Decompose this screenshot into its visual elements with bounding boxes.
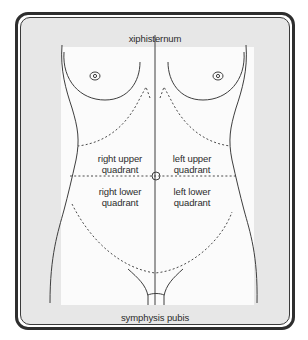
torso-outline-left (50, 45, 78, 303)
breast-left (64, 52, 140, 100)
luq-line2: quadrant (173, 164, 212, 175)
rlq-line1: right lower (99, 186, 142, 197)
pubic-line (148, 294, 164, 296)
nipple-right (213, 72, 223, 80)
label-right-upper-quadrant: right upper quadrant (98, 153, 142, 175)
label-xiphisternum: xiphisternum (129, 33, 182, 44)
rug-line1: right upper (98, 153, 142, 164)
nipple-left (90, 72, 100, 80)
thigh-line-left (128, 269, 148, 305)
rlq-line2: quadrant (99, 197, 142, 208)
label-left-upper-quadrant: left upper quadrant (173, 153, 212, 175)
label-symphysis-pubis: symphysis pubis (121, 312, 189, 323)
breast-right (168, 52, 244, 100)
llq-line1: left lower (173, 186, 210, 197)
costal-margin-left (78, 87, 150, 146)
costal-margin-right (160, 87, 230, 146)
thigh-line-right (164, 269, 183, 305)
label-left-lower-quadrant: left lower quadrant (173, 186, 210, 208)
torso-illustration (0, 0, 308, 340)
inguinal-curve (72, 204, 232, 273)
label-right-lower-quadrant: right lower quadrant (99, 186, 142, 208)
llq-line2: quadrant (173, 197, 210, 208)
rug-line2: quadrant (98, 164, 142, 175)
luq-line1: left upper (173, 153, 212, 164)
torso-outline-right (230, 45, 257, 303)
